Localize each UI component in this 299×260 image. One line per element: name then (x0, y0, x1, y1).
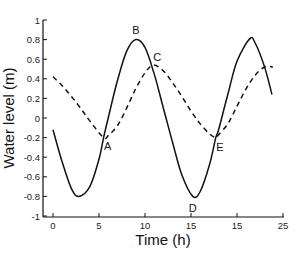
y-tick-label: 0.6 (27, 54, 40, 65)
y-tick-label: -0.6 (24, 171, 40, 182)
y-axis-title: Water level (m) (0, 67, 17, 168)
point-label-c: C (153, 51, 161, 63)
y-tick-label: 1 (35, 15, 40, 26)
x-tick-label: 10 (140, 220, 151, 231)
y-tick-label: 0 (35, 113, 40, 124)
x-tick-label: 5 (96, 220, 101, 231)
y-tick-label: -0.2 (24, 132, 40, 143)
dashed-series-line (53, 65, 273, 139)
point-label-b: B (132, 24, 139, 36)
y-tick-label: 0.8 (27, 34, 40, 45)
x-tick-label: 0 (50, 220, 55, 231)
y-tick-label: -0.4 (24, 152, 40, 163)
x-tick-label: 15 (232, 220, 243, 231)
series-lines (53, 37, 273, 197)
y-tick-label: 0.4 (27, 73, 40, 84)
y-tick-label: -0.8 (24, 191, 40, 202)
y-tick-label: 0.2 (27, 93, 40, 104)
point-label-e: E (216, 141, 223, 153)
x-tick-label: 25 (278, 220, 289, 231)
axes: 10.80.60.40.20-0.2-0.4-0.6-0.8-1 0510151… (24, 15, 289, 232)
water-level-chart: 10.80.60.40.20-0.2-0.4-0.6-0.8-1 0510151… (0, 0, 299, 260)
y-tick-label: -1 (32, 211, 40, 222)
point-annotations: ABCDE (104, 24, 224, 215)
point-label-d: D (189, 202, 197, 214)
x-axis-title: Time (h) (135, 231, 190, 248)
solid-series-line (53, 37, 272, 197)
x-tick-label: 15 (186, 220, 197, 231)
point-label-a: A (104, 140, 112, 152)
x-ticks: 0510151525 (50, 213, 288, 231)
